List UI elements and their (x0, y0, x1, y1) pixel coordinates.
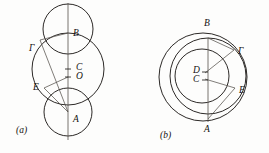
figure-drawing-canvas (0, 0, 269, 153)
point-label-o: O (76, 72, 83, 82)
panel-tag-b: (b) (160, 131, 171, 141)
panel-tag-a: (a) (16, 126, 27, 136)
point-label-γ: Γ (238, 47, 244, 57)
geometry-figure-plate: BΓCOEA(a)BΓDCEA(b) (0, 0, 269, 153)
innermost-circle (175, 49, 229, 103)
point-label-γ: Γ (29, 44, 35, 54)
segment-e-o (44, 77, 68, 88)
segment-d-gamma (205, 50, 234, 73)
point-label-a: A (73, 115, 79, 125)
point-label-e: E (33, 83, 39, 93)
point-label-e: E (239, 86, 245, 96)
panel-a (32, 3, 104, 140)
segment-gamma-a (40, 40, 68, 112)
segment-a-e (208, 88, 235, 119)
segment-b-gamma (208, 38, 234, 50)
point-label-b: B (73, 29, 79, 39)
point-label-b: B (204, 19, 210, 29)
panel-b (159, 33, 247, 122)
point-label-c: C (193, 75, 200, 85)
outer-circle (159, 33, 247, 121)
point-label-a: A (204, 125, 210, 135)
segment-c-e (205, 79, 235, 88)
